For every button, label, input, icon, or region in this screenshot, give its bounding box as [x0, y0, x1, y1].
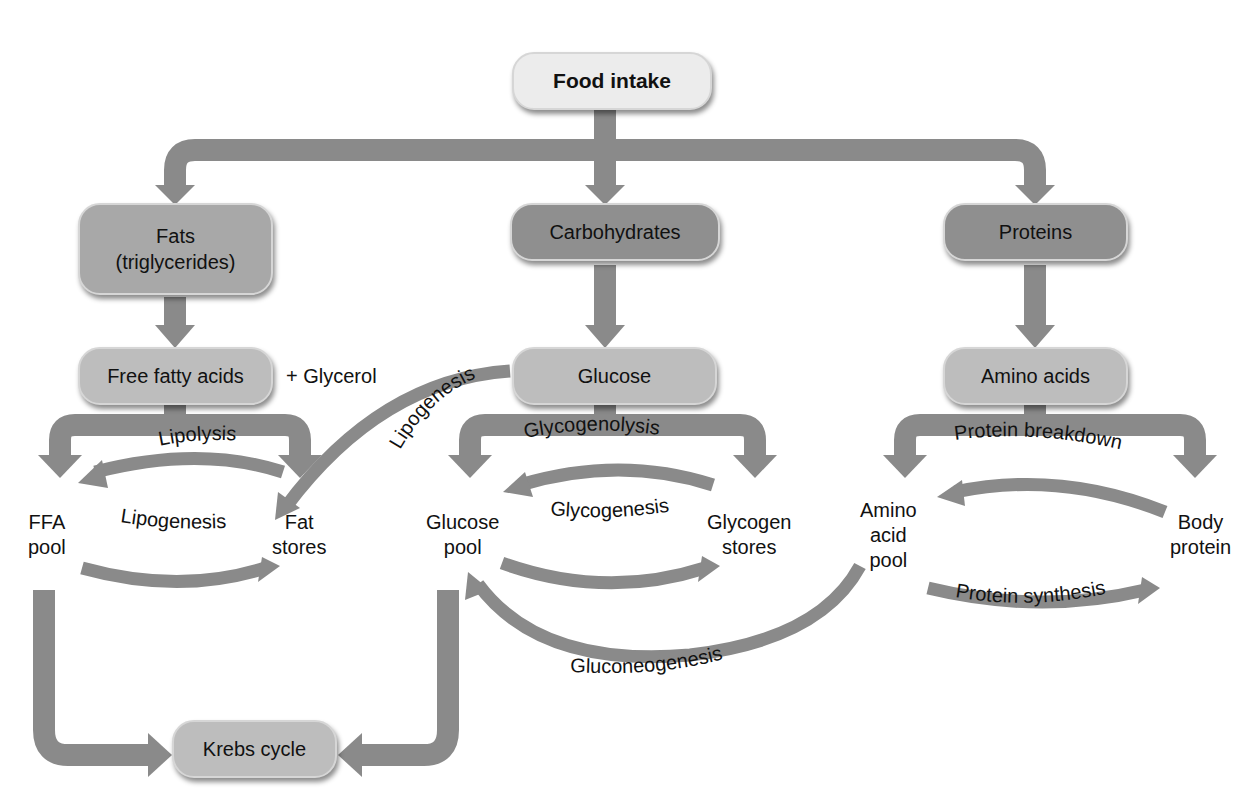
node-body-protein: Body protein	[1170, 510, 1231, 560]
process-lipogenesis-fat: Lipogenesis	[119, 504, 226, 532]
node-label: Glycogen	[707, 510, 792, 535]
node-fats: Fats (triglycerides)	[78, 203, 273, 295]
node-glycogen-stores: Glycogen stores	[707, 510, 792, 560]
process-labels: Lipolysis Lipogenesis Lipogenesis Glycog…	[119, 362, 1124, 678]
node-proteins: Proteins	[943, 203, 1128, 261]
glycerol-label: + Glycerol	[286, 364, 377, 389]
node-label: stores	[272, 535, 326, 560]
node-amino-acid-pool: Amino acid pool	[860, 498, 917, 573]
node-label: Glucose	[578, 363, 651, 389]
node-amino-acids: Amino acids	[943, 347, 1128, 405]
node-label: Proteins	[999, 219, 1072, 245]
node-food-intake: Food intake	[512, 52, 712, 110]
metabolism-arrows: Lipolysis Lipogenesis Lipogenesis Glycog…	[0, 0, 1258, 811]
node-glucose-pool: Glucose pool	[426, 510, 499, 560]
node-label: Krebs cycle	[203, 736, 306, 762]
node-label: Carbohydrates	[549, 219, 680, 245]
node-label: Amino acids	[981, 363, 1090, 389]
node-label: protein	[1170, 535, 1231, 560]
node-glucose: Glucose	[512, 347, 717, 405]
node-label: Amino	[860, 498, 917, 523]
node-label: pool	[860, 548, 917, 573]
node-label: pool	[28, 535, 66, 560]
node-label: pool	[426, 535, 499, 560]
node-carbohydrates: Carbohydrates	[510, 203, 720, 261]
node-label: stores	[707, 535, 792, 560]
node-label: acid	[860, 523, 917, 548]
node-label: FFA	[28, 510, 66, 535]
node-label: Food intake	[553, 68, 671, 94]
node-label: Glucose	[426, 510, 499, 535]
node-label: Free fatty acids	[107, 363, 244, 389]
node-label: (triglycerides)	[115, 249, 235, 275]
process-lipolysis: Lipolysis	[156, 422, 236, 450]
node-ffa-pool: FFA pool	[28, 510, 66, 560]
node-label: Body	[1170, 510, 1231, 535]
node-free-fatty-acids: Free fatty acids	[78, 347, 273, 405]
node-krebs-cycle: Krebs cycle	[172, 720, 337, 778]
node-label: Fats	[156, 223, 195, 249]
process-glycogenolysis: Glycogenolysis	[522, 412, 662, 441]
node-label: Fat	[272, 510, 326, 535]
process-glycogenesis: Glycogenesis	[550, 494, 671, 522]
node-fat-stores: Fat stores	[272, 510, 326, 560]
